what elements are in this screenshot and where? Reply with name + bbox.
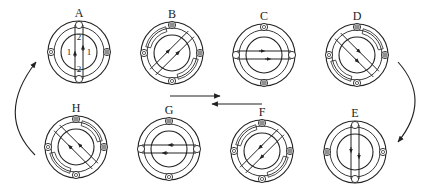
rotor-circle	[246, 37, 282, 73]
outer-ring	[326, 24, 388, 86]
stage-f: F	[230, 105, 293, 183]
rotor-circle	[244, 133, 280, 169]
current-arrow-icon	[176, 52, 179, 55]
current-arrow-icon	[260, 145, 263, 148]
brush-left	[140, 49, 147, 56]
terminal-left	[232, 51, 239, 58]
terminal-right	[193, 145, 200, 152]
stage-d: D	[325, 9, 388, 87]
stage-label: F	[259, 105, 266, 119]
terminal-bottom	[75, 75, 82, 82]
brush-right	[196, 49, 203, 56]
brush-right	[286, 147, 293, 154]
current-arrow-icon	[166, 51, 169, 54]
current-arrow-icon	[356, 49, 359, 52]
stage-a: A1122	[47, 6, 110, 83]
stage-label: G	[165, 103, 174, 117]
stage-label: H	[72, 101, 81, 115]
brush-bottom	[168, 77, 175, 84]
brush-bottom	[258, 175, 265, 182]
brush-top	[353, 23, 360, 30]
stage-c: C	[232, 9, 295, 87]
rotor-circle	[337, 134, 373, 170]
brush-right	[379, 148, 386, 155]
stage-h: H	[44, 101, 107, 179]
brush-top	[258, 119, 265, 126]
stage-label: E	[351, 106, 358, 120]
terminal-top	[351, 121, 358, 128]
current-arrow-icon	[70, 146, 73, 149]
terminal-left	[137, 145, 144, 152]
rotation-sequence-diagram: A1122BCDEFGH	[0, 0, 433, 194]
brush-bottom	[353, 79, 360, 86]
stage-label: C	[260, 9, 268, 23]
terminal-bottom	[351, 175, 358, 182]
current-arrow-icon	[261, 155, 264, 158]
side-label-left: 1	[67, 47, 72, 57]
stage-label: B	[168, 7, 176, 21]
outer-ring	[231, 120, 293, 182]
brush-bottom	[72, 171, 79, 178]
outer-ring	[138, 118, 200, 180]
outer-ring	[141, 22, 203, 84]
curved-arrow-h-to-a	[15, 62, 36, 155]
brush-right	[381, 51, 388, 58]
stage-g: G	[137, 103, 200, 181]
stage-label: A	[75, 6, 84, 20]
stage-label: D	[353, 9, 362, 23]
terminal-right	[288, 51, 295, 58]
brush-left	[44, 143, 51, 150]
brush-top	[260, 23, 267, 30]
curved-arrow-d-to-e	[398, 62, 415, 142]
brush-left	[47, 48, 54, 55]
coil	[142, 145, 196, 153]
brush-left	[323, 148, 330, 155]
brush-right	[100, 143, 107, 150]
rotor-circle	[151, 131, 187, 167]
terminal-top	[75, 21, 82, 28]
brush-top	[165, 117, 172, 124]
coil-label-bottom: 2	[77, 64, 82, 74]
current-arrow-icon	[80, 145, 83, 148]
stage-b: B	[140, 7, 203, 85]
coil-label-top: 2	[77, 32, 82, 42]
outer-ring	[324, 121, 386, 183]
outer-ring	[233, 24, 295, 86]
current-arrow-icon	[355, 59, 358, 62]
brush-right	[103, 48, 110, 55]
brush-top	[168, 21, 175, 28]
outer-ring	[45, 116, 107, 178]
brush-top	[72, 115, 79, 122]
coil	[351, 125, 359, 179]
coil	[237, 51, 291, 59]
rotor-circle	[154, 35, 190, 71]
brush-left	[325, 51, 332, 58]
rotor-circle	[58, 129, 94, 165]
brush-left	[230, 147, 237, 154]
brush-bottom	[260, 79, 267, 86]
stage-e: E	[323, 106, 386, 183]
side-label-right: 1	[87, 47, 92, 57]
brush-bottom	[165, 173, 172, 180]
rotor-circle	[339, 37, 375, 73]
